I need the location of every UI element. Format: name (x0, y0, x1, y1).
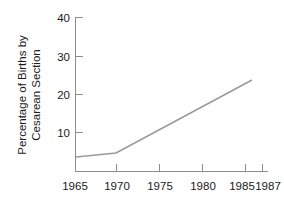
x-tick-marks (117, 164, 263, 172)
x-tick-label-1987: 1987 (255, 180, 281, 192)
y-tick-label-10: 10 (57, 127, 70, 139)
cesarean-section-line-chart: 40 30 20 10 1965 1970 1975 1980 1985 198… (0, 0, 284, 201)
x-tick-label-1980: 1980 (190, 180, 216, 192)
y-tick-label-40: 40 (57, 12, 70, 24)
y-axis-label-line-1: Percentage of Births by (16, 35, 28, 155)
y-axis-label-line-2: Cesarean Section (30, 49, 42, 140)
y-tick-label-20: 20 (57, 89, 70, 101)
chart-canvas: 40 30 20 10 1965 1970 1975 1980 1985 198… (0, 0, 284, 201)
x-tick-label-1965: 1965 (62, 180, 88, 192)
data-series-line (76, 80, 252, 157)
x-tick-label-1970: 1970 (104, 180, 130, 192)
y-axis-label: Percentage of Births by Cesarean Section (16, 35, 42, 155)
y-tick-marks (76, 18, 84, 133)
x-tick-label-1985: 1985 (229, 180, 255, 192)
y-tick-label-30: 30 (57, 51, 70, 63)
x-tick-label-1975: 1975 (147, 180, 173, 192)
